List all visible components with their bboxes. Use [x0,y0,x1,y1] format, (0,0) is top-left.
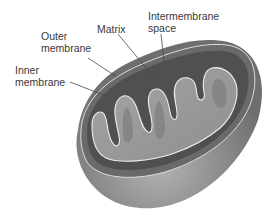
label-inner-membrane: Inner membrane [15,64,65,88]
label-matrix: Matrix [97,23,126,35]
mitochondrion-diagram: Outer membrane Inner membrane Matrix Int… [0,0,273,218]
label-outer-membrane: Outer membrane [41,30,91,54]
label-intermembrane-space: Intermembrane space [148,10,219,34]
leader-line-outer-membrane [88,58,117,77]
